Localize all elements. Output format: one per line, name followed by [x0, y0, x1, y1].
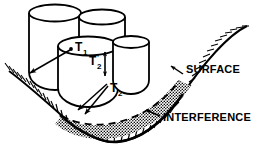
label-surface: SURFACE: [186, 63, 240, 75]
diagram-canvas: T 1 T 2 ' T 2 SURFACE INTERFERENCE: [0, 0, 261, 152]
label-t2-subscript: 2: [118, 89, 123, 98]
label-interference: INTERFERENCE: [163, 111, 251, 123]
label-t2prime-base: T: [89, 54, 97, 68]
label-t1-subscript: 1: [83, 48, 88, 57]
label-t2prime-prime: ': [97, 53, 99, 62]
label-t1-base: T: [75, 40, 83, 54]
cylinder-right: [113, 36, 149, 94]
label-t2prime-subscript: 2: [97, 62, 102, 71]
technical-diagram: T 1 T 2 ' T 2 SURFACE INTERFERENCE: [0, 0, 261, 152]
label-t2-base: T: [110, 81, 118, 95]
cylinder-front-center: [58, 37, 118, 108]
